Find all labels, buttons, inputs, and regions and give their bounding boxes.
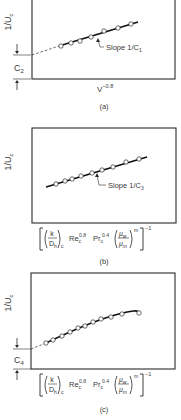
svg-text:−1: −1: [145, 371, 151, 377]
slope-callout: Slope 1/C1: [96, 38, 142, 53]
data-point: [137, 157, 141, 161]
data-point: [109, 315, 113, 319]
panel-b: 1/UcSlope 1/C3kDhcRec0.8Prc0.4μwμmm−1(b): [3, 128, 176, 266]
panel-c: 1/UcC4kDhcRec0.8Prc0.4μwμmm−1(c): [3, 273, 175, 414]
svg-text:μm: μm: [118, 240, 127, 249]
panel-a: 1/UcSlope 1/C1C2V−0.8(a): [3, 0, 175, 111]
y-axis-label: 1/Uc: [3, 153, 14, 170]
figure-canvas: 1/UcSlope 1/C1C2V−0.8(a)1/UcSlope 1/C3kD…: [0, 0, 181, 420]
data-point: [63, 179, 67, 183]
svg-text:Slope 1/C3: Slope 1/C3: [108, 181, 144, 191]
data-point: [70, 177, 74, 181]
intercept-label: C2: [14, 63, 25, 74]
svg-text:c: c: [61, 389, 64, 395]
svg-text:k: k: [50, 230, 54, 237]
svg-text:−1: −1: [145, 225, 151, 231]
data-point: [120, 312, 124, 316]
data-point: [59, 44, 63, 48]
svg-text:m: m: [134, 373, 138, 379]
svg-text:c: c: [61, 243, 64, 249]
slope-callout: Slope 1/C3: [95, 173, 144, 191]
svg-text:0.4: 0.4: [102, 378, 109, 384]
data-point: [83, 324, 87, 328]
data-point: [124, 160, 128, 164]
panel-caption: (b): [99, 257, 109, 266]
data-point: [76, 326, 80, 330]
data-point: [90, 171, 94, 175]
data-point: [79, 174, 83, 178]
svg-text:k: k: [50, 376, 54, 383]
data-point: [78, 39, 82, 43]
intercept-marker: C4: [13, 338, 31, 380]
x-axis-formula: kDhcRec0.8Prc0.4μwμmm−1: [40, 371, 151, 396]
data-point: [68, 330, 72, 334]
plot-frame: [31, 273, 175, 369]
svg-text:0.4: 0.4: [102, 232, 109, 238]
svg-text:Dh: Dh: [49, 240, 57, 249]
data-point: [137, 311, 141, 315]
data-point: [44, 341, 48, 345]
data-point: [54, 182, 58, 186]
x-axis-formula: kDhcRec0.8Prc0.4μwμmm−1: [40, 225, 151, 250]
data-point: [100, 168, 104, 172]
plot-frame: [32, 0, 175, 79]
x-axis-label: V−0.8: [97, 83, 113, 94]
data-point: [69, 41, 73, 45]
intercept-label: C4: [14, 355, 25, 366]
extrapolation-line: [32, 46, 59, 55]
intercept-marker: C2: [13, 44, 31, 90]
svg-text:μm: μm: [118, 386, 127, 395]
panel-caption: (a): [99, 102, 109, 111]
svg-text:m: m: [134, 227, 138, 233]
data-point: [129, 22, 133, 26]
svg-text:0.8: 0.8: [79, 232, 86, 238]
fit-curve: [46, 311, 139, 343]
data-point: [91, 320, 95, 324]
data-point: [116, 26, 120, 30]
svg-text:Slope 1/C1: Slope 1/C1: [106, 43, 142, 53]
svg-text:μw: μw: [118, 376, 127, 385]
svg-text:μw: μw: [118, 230, 127, 239]
data-point: [111, 165, 115, 169]
panel-caption: (c): [100, 405, 109, 414]
y-axis-label: 1/Uc: [3, 294, 14, 311]
plot-frame: [32, 128, 176, 223]
y-axis-label: 1/Uc: [3, 13, 14, 30]
data-point: [99, 317, 103, 321]
data-point: [51, 338, 55, 342]
data-point: [60, 334, 64, 338]
svg-text:0.8: 0.8: [79, 378, 86, 384]
data-point: [89, 35, 93, 39]
data-point: [102, 29, 106, 33]
svg-text:Dh: Dh: [49, 386, 57, 395]
